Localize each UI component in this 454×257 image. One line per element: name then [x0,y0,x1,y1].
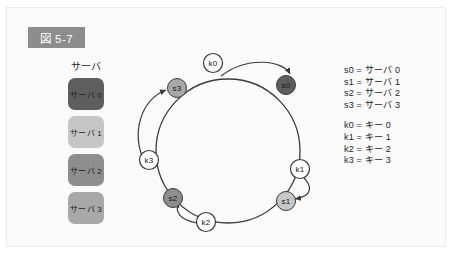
figure-panel: 図 5-7 サーバ サーバ 0 サーバ 1 サーバ 2 サーバ 3 s0 = サ… [6,7,446,247]
ring-node-label: k3 [145,156,154,165]
ring-node-label: k0 [209,59,218,68]
ring-node-label: s3 [173,84,182,93]
ring-node-label: s1 [282,197,291,206]
ring-node-s0[interactable]: s0 [277,76,296,95]
ring-node-k1[interactable]: k1 [291,160,310,179]
ring-node-k0[interactable]: k0 [204,54,223,73]
ring-node-k2[interactable]: k2 [197,213,216,232]
arrow-k3-to-s3 [138,90,166,161]
ring-node-label: s0 [282,81,291,90]
arrow-k0-to-s0 [221,62,290,76]
consistent-hashing-ring-diagram: s0 s1 s2 s3 k0 k1 [7,8,447,248]
ring-node-k3[interactable]: k3 [140,151,159,170]
ring-node-s1[interactable]: s1 [277,192,296,211]
ring-node-label: k1 [296,165,305,174]
ring-node-s2[interactable]: s2 [164,189,183,208]
ring-node-label: s2 [169,194,178,203]
ring-node-s3[interactable]: s3 [168,79,187,98]
arrow-k1-to-s1 [295,176,310,199]
ring-node-label: k2 [202,218,211,227]
server-nodes-group: s0 s1 s2 s3 [164,76,296,211]
